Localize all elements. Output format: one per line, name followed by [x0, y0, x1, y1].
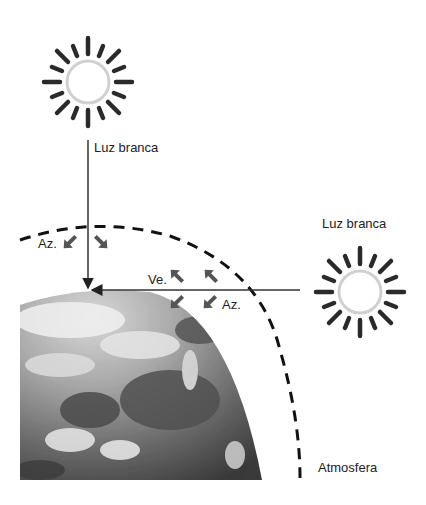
- atmosphere-label: Atmosfera: [318, 460, 377, 475]
- sun-icon: [316, 248, 404, 336]
- blue-scatter-label-left: Az.: [38, 236, 57, 251]
- violet-scatter-label: Ve.: [148, 272, 167, 287]
- blue-scatter-label-right: Az.: [222, 297, 241, 312]
- right-light-label: Luz branca: [322, 216, 386, 231]
- sun-icon: [44, 38, 132, 126]
- arrow-scatter-icon: [59, 232, 80, 253]
- arrow-scatter-icon: [166, 265, 187, 286]
- top-light-label: Luz branca: [94, 140, 158, 155]
- arrow-scatter-icon: [199, 292, 220, 313]
- earth-image: [15, 290, 262, 480]
- arrow-scatter-icon: [91, 232, 112, 253]
- diagram-canvas: [0, 0, 426, 505]
- arrow-scatter-icon: [200, 265, 221, 286]
